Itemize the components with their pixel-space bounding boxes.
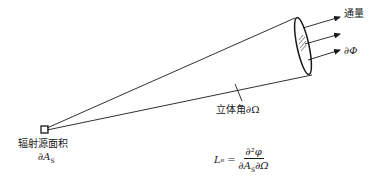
flux-arrow-bottom xyxy=(308,50,340,60)
flux-symbol: ∂Φ xyxy=(344,46,357,56)
radiance-cone-diagram xyxy=(0,0,369,181)
radiance-formula: Le = ∂²φ ∂AS∂Ω xyxy=(214,146,269,173)
flux-arrow-middle xyxy=(305,34,340,44)
flux-label: 通量 xyxy=(344,9,364,19)
source-area-square xyxy=(41,126,48,133)
formula-fraction: ∂²φ ∂AS∂Ω xyxy=(239,146,269,173)
cone-bottom-edge xyxy=(47,75,312,130)
solid-angle-label: 立体角∂Ω xyxy=(216,105,259,115)
source-area-label: 辐射源面积 xyxy=(18,139,68,149)
hatch-marks xyxy=(299,35,306,51)
source-area-symbol: ∂AS xyxy=(38,152,55,164)
solid-angle-tick xyxy=(235,84,242,101)
flux-arrow-top xyxy=(303,17,340,28)
